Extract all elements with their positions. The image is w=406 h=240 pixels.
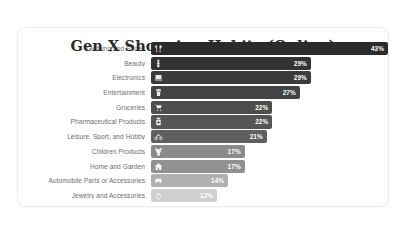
bar-track: 27% [151, 86, 388, 99]
car-icon [154, 176, 163, 185]
bar: 12% [151, 189, 217, 202]
bar-value-label: 29% [294, 60, 307, 67]
popcorn-icon [154, 88, 163, 97]
bar-chart-rows: Clothing and Shoes43%Beauty29%Electronic… [18, 42, 388, 204]
bar-row: Electronics29% [18, 71, 388, 84]
teddy-bear-icon [154, 147, 163, 156]
bar-category-label: Entertainment [18, 89, 151, 96]
bar-track: 12% [151, 189, 388, 202]
pill-bottle-icon [154, 117, 163, 126]
lipstick-icon [154, 59, 163, 68]
bar-category-label: Home and Garden [18, 163, 151, 170]
bar-row: Home and Garden17% [18, 160, 388, 173]
laptop-icon [154, 73, 163, 82]
bar: 27% [151, 86, 300, 99]
bar-track: 17% [151, 160, 388, 173]
bar: 22% [151, 101, 272, 114]
bar-row: Children Products17% [18, 145, 388, 158]
bar-category-label: Groceries [18, 104, 151, 111]
shopping-cart-icon [154, 103, 163, 112]
bar: 29% [151, 57, 311, 70]
bar: 17% [151, 160, 245, 173]
bar-value-label: 27% [283, 89, 296, 96]
house-icon [154, 162, 163, 171]
bar-row: Pharmaceutical Products22% [18, 115, 388, 128]
bar: 17% [151, 145, 245, 158]
bar-category-label: Leisure, Sport, and Hobby [18, 133, 151, 140]
bar-category-label: Jewelry and Accessories [18, 192, 151, 199]
bar: 14% [151, 174, 228, 187]
bar-value-label: 12% [200, 192, 213, 199]
bar: 22% [151, 115, 272, 128]
bar-value-label: 22% [255, 104, 268, 111]
bar-row: Beauty29% [18, 57, 388, 70]
bar-category-label: Electronics [18, 74, 151, 81]
bar-category-label: Beauty [18, 60, 151, 67]
bar-category-label: Pharmaceutical Products [18, 118, 151, 125]
bar-category-label: Automobile Parts or Accessories [18, 177, 151, 184]
bar-value-label: 29% [294, 74, 307, 81]
bar-row: Jewelry and Accessories12% [18, 189, 388, 202]
bar-value-label: 22% [255, 118, 268, 125]
bar-track: 22% [151, 101, 388, 114]
bar-row: Groceries22% [18, 101, 388, 114]
chart-card: Gen X Shopping Habits (Online) Clothing … [17, 27, 389, 207]
bar-track: 14% [151, 174, 388, 187]
bar: 29% [151, 71, 311, 84]
bar-category-label: Children Products [18, 148, 151, 155]
chart-title: Gen X Shopping Habits (Online) [18, 37, 388, 54]
bar-value-label: 14% [211, 177, 224, 184]
bar-row: Automobile Parts or Accessories14% [18, 174, 388, 187]
bar-value-label: 17% [228, 163, 241, 170]
bar-track: 29% [151, 71, 388, 84]
bar-value-label: 17% [228, 148, 241, 155]
bar-row: Leisure, Sport, and Hobby21% [18, 130, 388, 143]
ring-icon [154, 191, 163, 200]
bar: 21% [151, 130, 267, 143]
bar-track: 17% [151, 145, 388, 158]
bar-track: 29% [151, 57, 388, 70]
bar-value-label: 21% [250, 133, 263, 140]
bar-track: 22% [151, 115, 388, 128]
bar-track: 21% [151, 130, 388, 143]
bicycle-icon [154, 132, 163, 141]
bar-row: Entertainment27% [18, 86, 388, 99]
